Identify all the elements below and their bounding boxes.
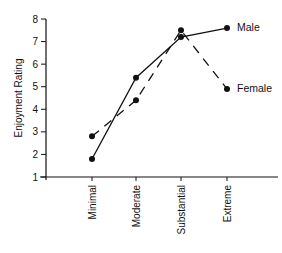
series-line-male xyxy=(92,28,227,159)
series-label-male: Male xyxy=(237,21,260,33)
axes xyxy=(40,19,278,181)
labels-group: 12345678Enjoyment RatingMinimalModerateS… xyxy=(13,14,272,235)
series-group xyxy=(89,25,230,162)
x-tick-label-substantial: Substantial xyxy=(176,185,187,234)
y-tick-label: 5 xyxy=(32,81,38,92)
series-label-female: Female xyxy=(237,82,272,94)
data-point-male xyxy=(133,75,139,81)
data-point-male xyxy=(89,156,95,162)
line-chart: 12345678Enjoyment RatingMinimalModerateS… xyxy=(0,0,282,253)
y-tick-label: 2 xyxy=(32,149,38,160)
y-axis-label: Enjoyment Rating xyxy=(13,59,24,138)
y-tick-label: 6 xyxy=(32,59,38,70)
y-tick-label: 3 xyxy=(32,126,38,137)
y-tick-label: 1 xyxy=(32,172,38,183)
data-point-female xyxy=(89,133,95,139)
x-tick-label-minimal: Minimal xyxy=(87,185,98,219)
y-tick-label: 4 xyxy=(32,104,38,115)
x-tick-label-moderate: Moderate xyxy=(131,185,142,228)
x-tick-label-extreme: Extreme xyxy=(222,185,233,223)
data-point-female xyxy=(133,97,139,103)
y-tick-label: 8 xyxy=(32,14,38,25)
data-point-male xyxy=(224,25,230,31)
data-point-male xyxy=(178,34,184,40)
data-point-female xyxy=(224,86,230,92)
data-point-female xyxy=(178,27,184,33)
y-tick-label: 7 xyxy=(32,36,38,47)
